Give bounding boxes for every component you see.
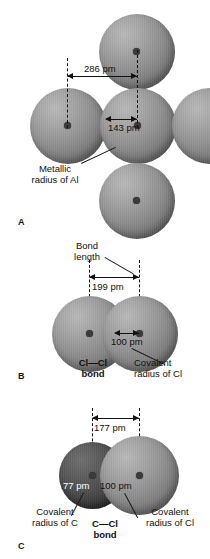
covalent-cl-b-line1: Covalent bbox=[134, 357, 172, 368]
aluminum-atom-right-partial bbox=[172, 88, 210, 164]
leader-bond-length bbox=[105, 257, 134, 274]
arrowhead-177-left bbox=[92, 415, 98, 421]
arrowhead-199-left bbox=[89, 274, 95, 280]
nucleus-carbon bbox=[89, 472, 96, 479]
nucleus-chlorine bbox=[136, 472, 143, 479]
panel-b-covalent-radius-cl2: Bond length 199 pm 100 pm Covalent radiu… bbox=[0, 236, 210, 396]
dimension-label-286: 286 pm bbox=[84, 63, 116, 74]
c-cl-bond-line1: C—Cl bbox=[92, 518, 118, 529]
covalent-c-line1: Covalent bbox=[36, 506, 74, 517]
dimension-label-77: 77 pm bbox=[63, 480, 89, 491]
nucleus-cl-left bbox=[86, 330, 93, 337]
cl-cl-bond-line1: Cl—Cl bbox=[79, 357, 108, 368]
panel-c-covalent-radius-ccl: 177 pm 77 pm 100 pm Covalent radius of C… bbox=[0, 396, 210, 559]
bond-length-line2: length bbox=[74, 251, 100, 262]
cl-cl-bond-line2: bond bbox=[81, 368, 104, 379]
c-cl-bond-label: C—Cl bond bbox=[79, 518, 131, 540]
radius-comparison-figure: 286 pm 143 pm Metallic radius of Al A Bo… bbox=[0, 0, 210, 559]
dimension-label-143: 143 pm bbox=[108, 122, 140, 133]
dimension-label-177: 177 pm bbox=[94, 422, 126, 433]
panel-letter-b: B bbox=[18, 371, 25, 381]
centerline-center bbox=[137, 50, 138, 128]
metallic-radius-line1: Metallic bbox=[39, 163, 71, 174]
dimension-label-100-b: 100 pm bbox=[111, 336, 143, 347]
dimension-line-286 bbox=[68, 76, 137, 77]
dimension-label-199: 199 pm bbox=[92, 281, 124, 292]
metallic-radius-callout: Metallic radius of Al bbox=[20, 163, 90, 185]
covalent-cl-b-line2: radius of Cl bbox=[134, 368, 182, 379]
dimension-label-100-c: 100 pm bbox=[100, 480, 132, 491]
covalent-radius-cl-callout-b: Covalent radius of Cl bbox=[134, 357, 208, 379]
dimension-line-199 bbox=[90, 277, 139, 278]
nucleus-bottom bbox=[133, 197, 140, 204]
bond-length-line1: Bond bbox=[76, 240, 98, 251]
covalent-cl-c-line1: Covalent bbox=[151, 506, 189, 517]
panel-a-metallic-radius: 286 pm 143 pm Metallic radius of Al A bbox=[0, 0, 210, 236]
centerline-left bbox=[67, 58, 68, 128]
cl-cl-bond-label: Cl—Cl bond bbox=[61, 357, 125, 379]
arrowhead-286-left bbox=[67, 73, 73, 79]
arrowhead-177-right bbox=[133, 415, 139, 421]
covalent-c-line2: radius of C bbox=[32, 517, 78, 528]
covalent-cl-c-line2: radius of Cl bbox=[146, 517, 194, 528]
metallic-radius-line2: radius of Al bbox=[32, 174, 79, 185]
panel-letter-a: A bbox=[18, 217, 25, 227]
arrowhead-286-right bbox=[131, 73, 137, 79]
covalent-radius-cl-callout-c: Covalent radius of Cl bbox=[131, 506, 209, 528]
panel-letter-c: C bbox=[18, 541, 25, 551]
arrowhead-199-right bbox=[133, 274, 139, 280]
c-cl-bond-line2: bond bbox=[93, 529, 116, 540]
